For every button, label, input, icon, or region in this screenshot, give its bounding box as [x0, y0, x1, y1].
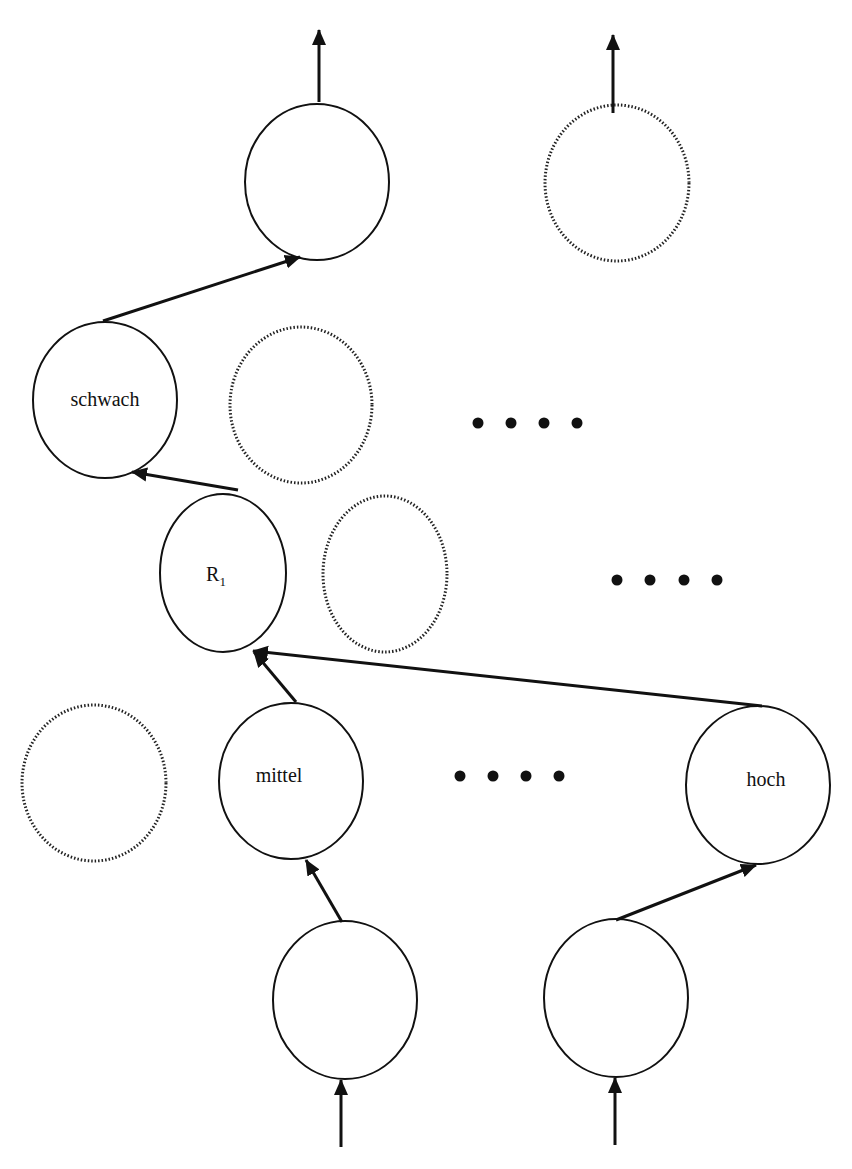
- node-inactive-r1-layer: [323, 496, 447, 652]
- edge-hoch-to-r1: [253, 651, 762, 706]
- edge-mittel-to-r1: [254, 652, 296, 702]
- input-node-1: [273, 921, 417, 1079]
- node-r1-label: R1: [206, 563, 226, 589]
- node-schwach-label: schwach: [71, 388, 140, 410]
- output-node-1: [245, 104, 389, 260]
- node-hoch-label: hoch: [747, 768, 786, 790]
- ellipsis-membership-layer: [455, 771, 565, 782]
- edge-input2-to-hoch: [616, 865, 756, 920]
- edge-input1-to-mittel: [306, 860, 342, 922]
- input-node-2: [544, 919, 688, 1077]
- node-inactive-schwach-layer: [230, 327, 372, 483]
- edge-schwach-to-output: [103, 257, 300, 321]
- edge-r1-to-schwach: [132, 472, 238, 490]
- ellipsis-r1-layer: [612, 575, 723, 586]
- ellipsis-schwach-layer: [473, 418, 583, 429]
- network-diagram: schwach R1 mittel hoch: [0, 0, 852, 1169]
- node-inactive-membership-layer: [22, 705, 166, 861]
- node-mittel-label: mittel: [256, 764, 303, 786]
- node-r1: [160, 494, 286, 652]
- output-node-2-inactive: [545, 105, 689, 261]
